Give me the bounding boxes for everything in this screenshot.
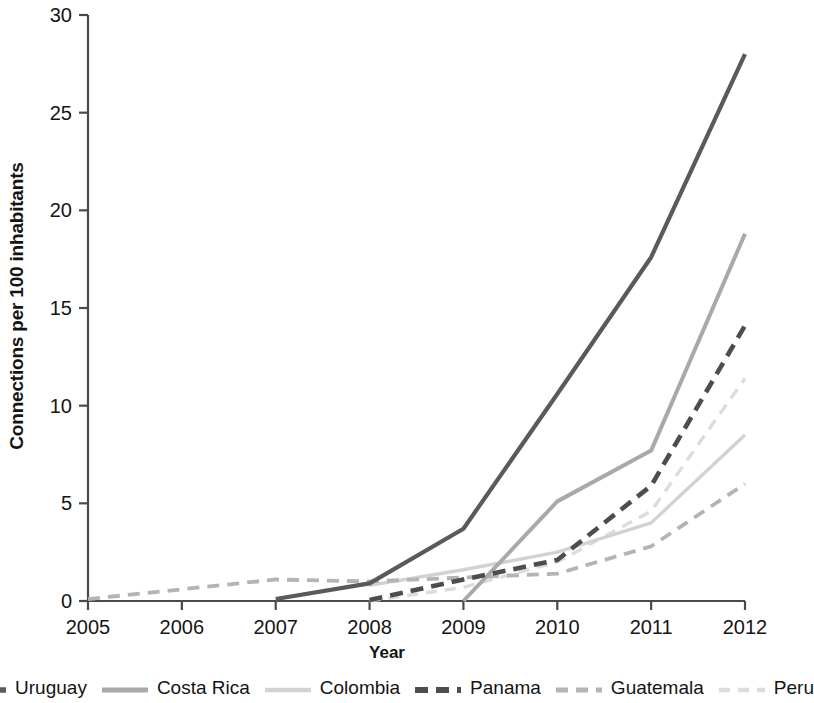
x-tick-label: 2006 xyxy=(160,616,205,638)
legend-entry-peru[interactable]: Peru xyxy=(719,677,814,699)
legend-entry-uruguay[interactable]: Uruguay xyxy=(0,677,87,699)
y-tick-label: 15 xyxy=(50,297,72,319)
legend-entry-panama[interactable]: Panama xyxy=(415,677,541,699)
y-tick-label: 25 xyxy=(50,102,72,124)
x-tick-labels: 20052006200720082009201020112012 xyxy=(66,616,768,638)
legend-label: Panama xyxy=(470,677,541,699)
x-tick-label: 2012 xyxy=(723,616,768,638)
y-tick-label: 20 xyxy=(50,199,72,221)
x-tick-label: 2007 xyxy=(253,616,298,638)
legend-entry-colombia[interactable]: Colombia xyxy=(265,677,400,699)
legend-swatch-icon xyxy=(265,682,311,694)
series-line-costa-rica xyxy=(463,234,745,601)
y-tick-label: 30 xyxy=(50,4,72,26)
data-series-group xyxy=(88,54,745,601)
chart-legend: UruguayCosta RicaColombiaPanamaGuatemala… xyxy=(0,672,774,703)
legend-label: Colombia xyxy=(320,677,400,699)
legend-swatch-icon xyxy=(0,682,6,694)
legend-entry-guatemala[interactable]: Guatemala xyxy=(556,677,704,699)
legend-label: Costa Rica xyxy=(157,677,250,699)
x-tick-label: 2009 xyxy=(441,616,486,638)
x-axis-title: Year xyxy=(0,643,774,663)
legend-label: Guatemala xyxy=(611,677,704,699)
legend-swatch-icon xyxy=(556,682,602,694)
x-tick-label: 2011 xyxy=(630,616,673,638)
legend-swatch-icon xyxy=(719,682,765,694)
legend-label: Peru xyxy=(774,677,814,699)
legend-label: Uruguay xyxy=(15,677,87,699)
x-tick-label: 2010 xyxy=(535,616,580,638)
y-tick-label: 5 xyxy=(61,492,72,514)
x-axis-title-text: Year xyxy=(369,643,405,662)
legend-entry-costa-rica[interactable]: Costa Rica xyxy=(102,677,250,699)
plot-area: 051015202530 200520062007200820092010201… xyxy=(0,0,774,645)
y-tick-marks xyxy=(79,15,88,601)
x-tick-label: 2005 xyxy=(66,616,111,638)
x-tick-marks xyxy=(88,601,745,610)
legend-swatch-icon xyxy=(415,682,461,694)
y-tick-label: 10 xyxy=(50,395,72,417)
series-line-uruguay xyxy=(276,54,745,599)
legend-swatch-icon xyxy=(102,682,148,694)
series-line-guatemala xyxy=(88,484,745,599)
y-tick-labels: 051015202530 xyxy=(50,4,72,612)
x-tick-label: 2008 xyxy=(347,616,392,638)
y-tick-label: 0 xyxy=(61,590,72,612)
